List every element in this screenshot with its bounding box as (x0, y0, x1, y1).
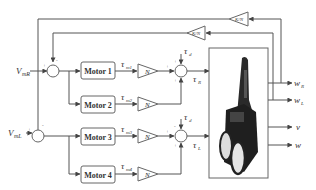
motor-4-block: Motor 4 (81, 166, 115, 183)
gain-n-2: N (138, 97, 158, 111)
torque-sum-left (175, 130, 187, 142)
svg-text:+: + (174, 78, 177, 83)
svg-text:-: - (174, 124, 176, 129)
svg-text:+: + (166, 64, 169, 69)
torque-label-R: τ R (193, 74, 201, 85)
svg-text:N: N (144, 171, 150, 179)
svg-text:d: d (189, 118, 192, 123)
torque-sum-right (175, 65, 187, 77)
svg-text:τ: τ (121, 161, 125, 171)
svg-text:w: w (294, 78, 300, 88)
svg-text:R: R (197, 80, 201, 85)
gain-n-3: N (138, 129, 158, 143)
svg-text:mR: mR (22, 71, 30, 77)
output-wR: w R (294, 78, 304, 89)
svg-text:+: + (174, 143, 177, 148)
svg-text:Motor 2: Motor 2 (84, 101, 112, 110)
torque-label-m2: τ m2 (121, 92, 133, 103)
svg-text:L: L (197, 146, 201, 151)
svg-text:mL: mL (14, 133, 22, 139)
gain-label-kn-top: K/N (234, 17, 244, 22)
svg-text:τ: τ (184, 112, 188, 122)
svg-text:τ: τ (121, 59, 125, 69)
svg-text:τ: τ (193, 74, 197, 84)
svg-text:Motor 4: Motor 4 (84, 171, 112, 180)
svg-text:τ: τ (193, 140, 197, 150)
output-wL: w L (294, 95, 304, 106)
disturbance-label-left: τ d (184, 112, 192, 123)
svg-text:N: N (144, 133, 150, 141)
svg-text:τ: τ (184, 46, 188, 56)
motor-3-block: Motor 3 (81, 128, 115, 145)
svg-text:-: - (42, 123, 44, 128)
svg-text:Motor 1: Motor 1 (84, 67, 112, 76)
gain-n-1: N (138, 64, 158, 78)
svg-text:m1: m1 (126, 65, 132, 70)
gain-label-kn-second: K/N (191, 31, 201, 36)
svg-text:τ: τ (121, 124, 125, 134)
feedback-gain-second: K/N (187, 26, 205, 40)
feedback-gain-top: K/N (229, 12, 248, 26)
svg-text:w: w (294, 95, 300, 105)
gain-n-4: N (138, 167, 158, 181)
svg-text:v: v (296, 122, 300, 132)
svg-text:N: N (144, 101, 150, 109)
svg-text:m3: m3 (126, 130, 133, 135)
disturbance-label-right: τ d (184, 46, 192, 57)
torque-label-L: τ L (193, 140, 201, 151)
svg-text:m2: m2 (126, 98, 133, 103)
svg-text:m4: m4 (126, 167, 133, 172)
torque-label-m1: τ m1 (121, 59, 132, 70)
output-w: w (295, 140, 301, 150)
svg-text:+: + (166, 129, 169, 134)
motor-1-block: Motor 1 (81, 62, 115, 79)
motor-2-block: Motor 2 (81, 96, 115, 113)
output-v: v (296, 122, 300, 132)
robot-plant-block (209, 48, 268, 178)
svg-text:N: N (144, 68, 150, 76)
block-diagram: K/N K/N V mR + - V mL + - Motor 1 Motor … (0, 0, 316, 190)
sum-junction-left (32, 130, 44, 142)
svg-text:w: w (295, 140, 301, 150)
svg-text:τ: τ (121, 92, 125, 102)
torque-label-m4: τ m4 (121, 161, 133, 172)
svg-text:L: L (300, 101, 304, 106)
svg-text:R: R (300, 84, 304, 89)
svg-text:d: d (189, 52, 192, 57)
svg-text:+: + (174, 59, 177, 64)
torque-label-m3: τ m3 (121, 124, 133, 135)
svg-text:Motor 3: Motor 3 (84, 133, 112, 142)
svg-text:+: + (43, 63, 46, 68)
svg-text:-: - (56, 58, 58, 63)
svg-text:+: + (28, 127, 31, 132)
sum-junction-right (47, 65, 59, 77)
